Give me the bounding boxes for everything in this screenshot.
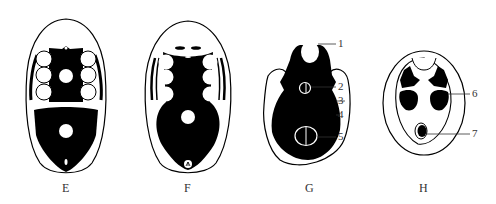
embryo-diagram	[0, 0, 496, 204]
callout-6: 6	[472, 88, 478, 99]
callout-1: 1	[338, 38, 344, 49]
panel-label-e: E	[62, 182, 69, 194]
callout-3: 3	[338, 95, 344, 106]
panel-label-g: G	[305, 182, 314, 194]
panel-label-f: F	[184, 182, 191, 194]
panel-e-drawing	[26, 19, 106, 173]
callout-7: 7	[472, 128, 478, 139]
callout-5: 5	[338, 131, 344, 142]
panel-h-drawing	[383, 51, 470, 155]
callout-4: 4	[338, 109, 344, 120]
panel-f-drawing	[145, 21, 231, 173]
panel-label-h: H	[419, 182, 428, 194]
callout-2: 2	[338, 81, 344, 92]
